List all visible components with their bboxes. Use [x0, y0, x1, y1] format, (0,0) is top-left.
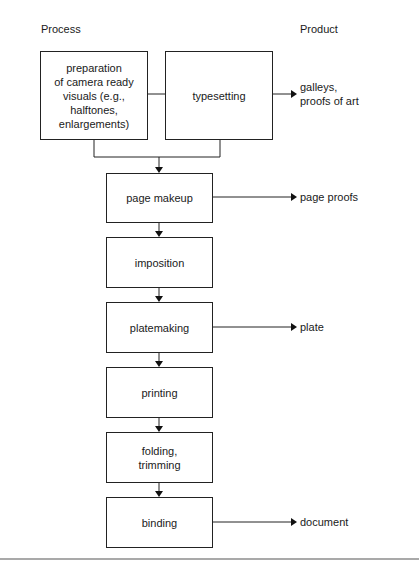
step-printing: printing [106, 367, 213, 418]
product-plate: plate [300, 320, 324, 334]
step-prep-visuals: preparation of camera ready visuals (e.g… [40, 51, 148, 140]
step-typesetting: typesetting [165, 51, 273, 140]
product-galleys: galleys, proofs of art [300, 80, 359, 108]
product-document: document [300, 515, 348, 529]
step-binding: binding [106, 497, 213, 548]
step-folding-trimming: folding, trimming [106, 432, 213, 483]
step-page-makeup: page makeup [106, 173, 213, 223]
step-imposition: imposition [106, 237, 213, 288]
product-header: Product [300, 23, 338, 35]
process-header: Process [41, 23, 81, 35]
product-page-proofs: page proofs [300, 190, 358, 204]
step-platemaking: platemaking [106, 302, 213, 353]
